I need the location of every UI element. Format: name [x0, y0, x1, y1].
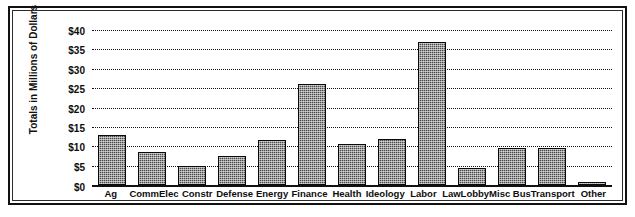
bar[interactable]: [138, 152, 167, 185]
bar-slot: [132, 30, 172, 185]
bar[interactable]: [258, 140, 287, 185]
bar-slot: [372, 30, 412, 185]
bar-slot: [212, 30, 252, 185]
y-axis-tick-label: $40: [68, 26, 85, 37]
bar-slot: [252, 30, 292, 185]
x-axis-tick-label: Labor: [405, 188, 442, 199]
bar[interactable]: [458, 168, 487, 185]
bar-slot: [572, 30, 612, 185]
y-axis-title: Totals in Millions of Dollars: [28, 0, 39, 145]
x-axis-tick-label: LawLobby: [442, 188, 489, 199]
y-axis-tick-label: $10: [68, 142, 85, 153]
x-axis-tick-label: Constr: [179, 188, 216, 199]
bar-series: [92, 30, 612, 185]
y-axis-tick-label: $30: [68, 64, 85, 75]
bar-slot: [332, 30, 372, 185]
bar[interactable]: [218, 156, 247, 185]
bar-slot: [532, 30, 572, 185]
x-axis-tick-label: Transport: [531, 188, 575, 199]
bar[interactable]: [98, 135, 127, 185]
bar-slot: [172, 30, 212, 185]
x-axis-tick-label: Defense: [216, 188, 253, 199]
x-axis-tick-label: Misc Bus: [489, 188, 531, 199]
chart-frame: Totals in Millions of Dollars $40$35$30$…: [8, 6, 627, 205]
bar[interactable]: [578, 182, 607, 185]
bar-slot: [292, 30, 332, 185]
x-axis-tick-labels: AgCommElecConstrDefenseEnergyFinanceHeal…: [92, 188, 612, 199]
y-axis-tick-label: $35: [68, 45, 85, 56]
bar-slot: [412, 30, 452, 185]
bar[interactable]: [378, 139, 407, 186]
x-axis-tick-label: Health: [328, 188, 365, 199]
x-axis-tick-label: Energy: [253, 188, 290, 199]
bar[interactable]: [178, 166, 207, 185]
chart-screenshot: Totals in Millions of Dollars $40$35$30$…: [0, 0, 635, 217]
x-axis-tick-label: CommElec: [129, 188, 178, 199]
x-axis-tick-label: Ag: [92, 188, 129, 199]
bar[interactable]: [538, 148, 567, 185]
x-axis-tick-label: Finance: [291, 188, 328, 199]
bar[interactable]: [418, 42, 447, 185]
x-axis-tick-label: Other: [575, 188, 612, 199]
plot-area: $40$35$30$25$20$15$10$5$0: [92, 30, 612, 185]
bar-slot: [492, 30, 532, 185]
y-axis-tick-label: $25: [68, 84, 85, 95]
y-axis-tick-label: $5: [74, 161, 85, 172]
x-axis-tick-label: Ideology: [366, 188, 405, 199]
bar[interactable]: [338, 144, 367, 185]
bar[interactable]: [498, 148, 527, 185]
axis-baseline: $0: [92, 185, 612, 187]
bar-slot: [92, 30, 132, 185]
y-axis-tick-label: $20: [68, 103, 85, 114]
y-axis-tick-label: $15: [68, 122, 85, 133]
bar-slot: [452, 30, 492, 185]
y-axis-tick-label: $0: [74, 182, 85, 193]
bar[interactable]: [298, 84, 327, 185]
